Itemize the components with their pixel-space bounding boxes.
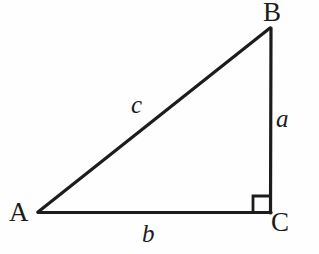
vertex-label-c: C (271, 209, 289, 236)
right-angle-marker (253, 196, 270, 212)
side-label-a: a (276, 106, 289, 131)
side-label-c: c (131, 92, 142, 117)
side-label-b: b (142, 221, 155, 246)
vertex-label-a: A (9, 199, 29, 226)
triangle-side-c (38, 28, 270, 212)
right-triangle-figure: B A C c a b (0, 0, 319, 254)
triangle-side-a (271, 28, 272, 213)
vertex-label-b: B (263, 0, 281, 26)
